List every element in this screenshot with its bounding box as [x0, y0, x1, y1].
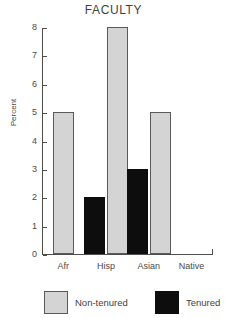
y-axis-tick-label: 3 — [32, 164, 37, 175]
y-axis-tick-mark — [43, 170, 47, 171]
legend-swatch-nontenured — [44, 291, 68, 314]
y-axis-tick-label: 4 — [32, 136, 37, 147]
legend-label-tenured: Tenured — [186, 297, 220, 308]
y-axis-tick-mark — [43, 198, 47, 199]
y-axis-tick-mark — [43, 85, 47, 86]
y-axis-tick-label: 0 — [32, 249, 37, 260]
y-axis-tick-mark — [43, 255, 47, 256]
y-axis-tick-label: 5 — [32, 107, 37, 118]
bar-nontenured-hisp — [107, 27, 128, 254]
y-axis-tick-mark — [43, 227, 47, 228]
y-axis-tick-label: 6 — [32, 79, 37, 90]
legend-item-tenured: Tenured — [155, 288, 220, 316]
y-axis-tick-mark — [43, 142, 47, 143]
faculty-bar-chart: FACULTY Percent 876543210 AfrHispAsianNa… — [0, 0, 227, 318]
legend-label-nontenured: Non-tenured — [75, 297, 128, 308]
plot-area: 876543210 — [42, 28, 213, 255]
y-axis-tick-label: 8 — [32, 22, 37, 33]
y-axis-tick-label: 1 — [32, 221, 37, 232]
chart-legend: Non-tenuredTenured — [0, 288, 227, 318]
y-axis-title: Percent — [9, 83, 18, 143]
bar-tenured-hisp — [84, 197, 105, 254]
x-axis-line — [42, 254, 213, 255]
bar-tenured-asian — [127, 169, 148, 254]
y-axis-tick-label: 2 — [32, 192, 37, 203]
legend-item-nontenured: Non-tenured — [44, 288, 128, 316]
x-axis-label-native: Native — [167, 261, 217, 271]
legend-swatch-tenured — [155, 291, 179, 314]
chart-title: FACULTY — [0, 3, 227, 17]
y-axis-tick-mark — [43, 56, 47, 57]
y-axis-tick-mark — [43, 113, 47, 114]
x-axis-tick-mark — [212, 249, 213, 254]
bar-nontenured-afr — [53, 112, 74, 254]
y-axis-tick-label: 7 — [32, 50, 37, 61]
bar-nontenured-asian — [150, 112, 171, 254]
y-axis-tick-mark — [43, 28, 47, 29]
